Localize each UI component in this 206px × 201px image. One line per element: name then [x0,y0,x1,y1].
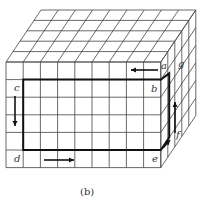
current-path [23,73,169,150]
label-g: g [178,59,184,69]
label-f: f [176,130,180,140]
label-a: a [161,61,167,71]
cube-grid-diagram [0,0,206,201]
label-b: b [151,84,157,94]
label-c: c [14,83,20,93]
label-d: d [14,154,20,164]
figure-caption: (b) [80,187,94,197]
label-e: e [152,154,158,164]
